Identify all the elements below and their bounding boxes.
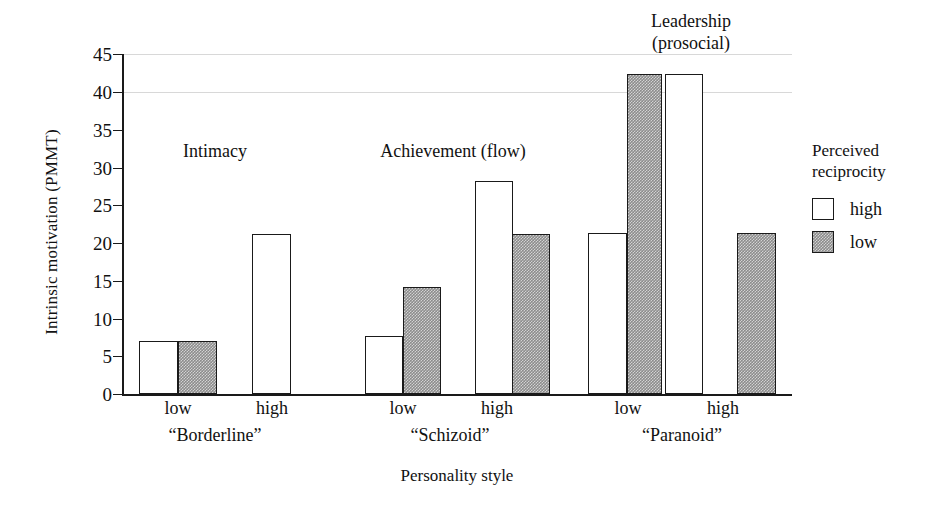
x-axis-title: Personality style [122, 466, 792, 486]
legend-swatch-high [812, 198, 834, 220]
bar-borderline-low-low [178, 341, 217, 394]
x-group-label-paranoid: “Paranoid” [582, 425, 782, 446]
y-tick-label-35: 35 [72, 121, 112, 140]
y-tick-mark-10 [113, 319, 122, 320]
legend-swatch-low [812, 231, 834, 253]
legend-label-high: high [850, 199, 882, 220]
bar-schizoid-low-low [403, 287, 441, 394]
legend-title-line1: Perceived [812, 140, 942, 161]
annotation-intimacy: Intimacy [135, 140, 295, 162]
y-axis-title: Intrinsic motivation (PMMT) [42, 52, 62, 412]
annotation-leadership-line1: Leadership [596, 10, 786, 32]
bar-schizoid-high-low [512, 234, 550, 394]
bar-schizoid-high-high [475, 181, 513, 394]
bar-borderline-low-high [139, 341, 178, 394]
x-group-label-schizoid: “Schizoid” [350, 425, 550, 446]
y-tick-label-0: 0 [72, 385, 112, 404]
legend-item-high[interactable]: high [812, 198, 942, 220]
bar-paranoid-high-high [665, 74, 703, 394]
bar-paranoid-high-low [737, 233, 776, 394]
x-label-paranoid-low: low [588, 398, 668, 419]
x-axis-line [122, 394, 792, 396]
annotation-leadership: Leadership (prosocial) [596, 10, 786, 54]
y-tick-mark-35 [113, 130, 122, 131]
y-tick-label-20: 20 [72, 234, 112, 253]
y-tick-mark-0 [113, 394, 122, 395]
x-label-schizoid-high: high [457, 398, 537, 419]
bar-schizoid-low-high [365, 336, 403, 394]
bar-paranoid-low-high [588, 233, 627, 394]
y-tick-label-5: 5 [72, 347, 112, 366]
annotation-leadership-line2: (prosocial) [596, 32, 786, 54]
x-label-paranoid-high: high [683, 398, 763, 419]
x-label-borderline-high: high [232, 398, 312, 419]
y-tick-mark-30 [113, 168, 122, 169]
y-tick-label-30: 30 [72, 159, 112, 178]
legend-title: Perceived reciprocity [812, 140, 942, 182]
y-tick-label-25: 25 [72, 196, 112, 215]
y-tick-mark-15 [113, 281, 122, 282]
y-tick-label-40: 40 [72, 83, 112, 102]
y-axis-line [122, 54, 124, 395]
x-group-label-borderline: “Borderline” [115, 425, 315, 446]
bar-chart-figure: Intrinsic motivation (PMMT) 45 40 35 30 … [0, 0, 945, 508]
y-tick-mark-20 [113, 243, 122, 244]
gridline-45 [122, 54, 792, 55]
y-tick-label-10: 10 [72, 310, 112, 329]
bar-borderline-high-high [252, 234, 291, 394]
y-tick-mark-25 [113, 205, 122, 206]
annotation-achievement: Achievement (flow) [338, 140, 568, 162]
y-tick-mark-40 [113, 92, 122, 93]
y-tick-mark-5 [113, 356, 122, 357]
x-label-schizoid-low: low [363, 398, 443, 419]
legend: Perceived reciprocity high low [812, 140, 942, 264]
y-tick-label-45: 45 [72, 45, 112, 64]
legend-title-line2: reciprocity [812, 161, 942, 182]
legend-label-low: low [850, 232, 877, 253]
y-tick-mark-45 [113, 54, 122, 55]
legend-item-low[interactable]: low [812, 231, 942, 253]
y-tick-label-15: 15 [72, 272, 112, 291]
x-label-borderline-low: low [138, 398, 218, 419]
bar-paranoid-low-low [627, 74, 662, 394]
